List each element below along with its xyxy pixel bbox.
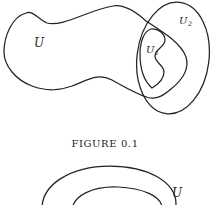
set-label-u1: U1 xyxy=(146,45,159,55)
figure2-outer-outline xyxy=(42,166,176,205)
figure2-label-u: U xyxy=(172,187,182,199)
set-u1-outline xyxy=(140,29,165,88)
set-diagram xyxy=(0,0,213,205)
figure2-inner-outline xyxy=(72,187,162,205)
set-label-u2-base: U xyxy=(179,15,187,26)
set-u-outline xyxy=(4,6,187,98)
set-label-u: U xyxy=(34,37,44,49)
set-label-u1-subscript: 1 xyxy=(155,49,159,56)
set-label-u2: U2 xyxy=(179,16,192,26)
set-label-u1-base: U xyxy=(146,44,154,55)
set-label-u2-subscript: 2 xyxy=(188,20,192,27)
scanned-page: U U1 U2 FIGURE 0.1 U xyxy=(0,0,213,205)
figure-caption: FIGURE 0.1 xyxy=(0,138,210,149)
